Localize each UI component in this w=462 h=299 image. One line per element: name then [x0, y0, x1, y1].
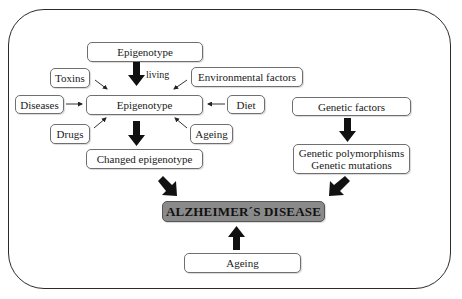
drugs-label: Drugs: [57, 128, 84, 140]
genetic-factors-box: Genetic factors: [292, 97, 411, 116]
genetic-variants-box: Genetic polymorphisms Genetic mutations: [293, 144, 410, 174]
genetic-polymorphisms-label: Genetic polymorphisms: [299, 147, 404, 159]
toxins-label: Toxins: [55, 72, 85, 84]
toxins-box: Toxins: [50, 68, 90, 88]
drugs-box: Drugs: [50, 124, 90, 144]
alzheimers-disease-box: ALZHEIMER´S DISEASE: [162, 201, 325, 222]
top-epigenotype-box: Epigenotype: [87, 42, 203, 62]
changed-epigenotype-box: Changed epigenotype: [86, 149, 203, 169]
living-label: living: [146, 69, 169, 80]
diet-box: Diet: [227, 95, 265, 114]
alzheimers-disease-label: ALZHEIMER´S DISEASE: [166, 206, 321, 218]
ageing-bottom-label: Ageing: [226, 257, 258, 269]
ageing-side-label: Ageing: [195, 128, 227, 140]
top-epigenotype-label: Epigenotype: [117, 46, 173, 58]
center-epigenotype-label: Epigenotype: [117, 99, 173, 111]
diet-label: Diet: [237, 99, 256, 111]
diseases-label: Diseases: [20, 99, 59, 111]
environmental-factors-label: Environmental factors: [198, 71, 296, 83]
environmental-factors-box: Environmental factors: [191, 67, 303, 87]
ageing-side-box: Ageing: [190, 124, 233, 144]
changed-epigenotype-label: Changed epigenotype: [97, 153, 193, 165]
diseases-box: Diseases: [15, 95, 64, 114]
ageing-bottom-box: Ageing: [184, 253, 301, 273]
center-epigenotype-box: Epigenotype: [86, 95, 203, 115]
genetic-mutations-label: Genetic mutations: [311, 159, 391, 171]
genetic-factors-label: Genetic factors: [318, 101, 385, 113]
